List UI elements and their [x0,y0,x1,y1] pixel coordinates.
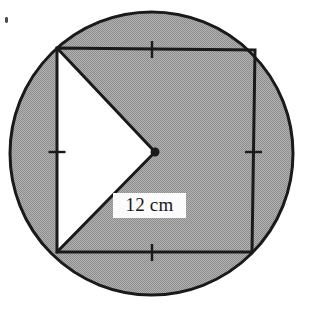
radius-length-label: 12 cm [113,193,186,218]
geometry-figure: 12 cm [0,0,309,331]
scan-speck [5,17,8,23]
geometry-canvas [0,0,309,331]
centre-dot [151,148,160,157]
